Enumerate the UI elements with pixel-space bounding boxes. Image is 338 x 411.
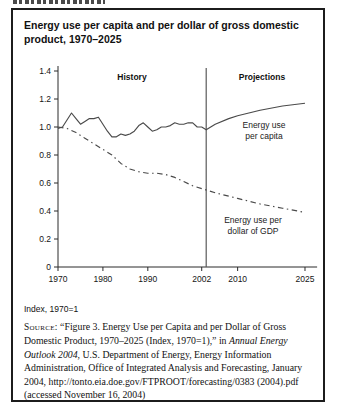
clipped-text-remnant [13,0,105,4]
projections-era-label: Projections [222,72,302,82]
y-tick-label: 0 [46,262,51,272]
x-tick-label: 2010 [228,274,247,284]
x-tick-label: 1970 [49,274,68,284]
y-tick-label: 1.4 [39,66,51,76]
source-label: Source: [24,322,58,332]
energy-line-chart: 00.20.40.60.81.01.21.4197019801990200220… [13,60,323,300]
figure-title: Energy use per capita and per dollar of … [24,19,306,46]
x-tick-label: 1990 [138,274,157,284]
figure-card: Energy use per capita and per dollar of … [11,8,325,402]
x-tick-label: 2025 [296,274,315,284]
figure-title-line1: Energy use per capita and per dollar of … [24,19,306,33]
y-tick-label: 0.6 [39,178,51,188]
history-era-label: History [92,72,172,82]
x-tick-label: 2002 [192,274,211,284]
series-label-energy-per-dollar-gdp: Energy use per dollar of GDP [208,215,298,236]
source-note: Source: “Figure 3. Energy Use per Capita… [24,320,314,401]
page-root: Energy use per capita and per dollar of … [0,0,338,411]
figure-title-line2: product, 1970–2025 [24,33,306,47]
index-note: Index, 1970=1 [24,304,78,314]
series-label-energy-per-capita: Energy use per capita [219,120,309,141]
y-tick-label: 0.2 [39,234,51,244]
y-tick-label: 1.2 [39,94,51,104]
x-tick-label: 1980 [93,274,112,284]
y-tick-label: 1.0 [39,122,51,132]
y-tick-label: 0.4 [39,206,51,216]
y-tick-label: 0.8 [39,150,51,160]
